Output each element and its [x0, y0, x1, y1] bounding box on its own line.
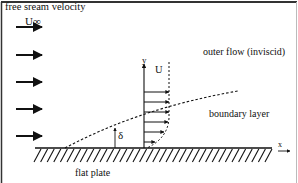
- hatch-mark: [219, 149, 226, 162]
- hatch-mark: [179, 149, 186, 162]
- hatch-mark: [146, 149, 153, 162]
- hatch-mark: [206, 149, 213, 162]
- velocity-profile-arrows: [144, 92, 169, 142]
- free-stream-arrows: [16, 27, 42, 136]
- hatch-mark: [140, 149, 147, 162]
- boundary-layer-edge: [65, 91, 238, 148]
- hatch-mark: [54, 149, 61, 162]
- flat-plate: [34, 148, 272, 162]
- hatch-mark: [126, 149, 133, 162]
- hatch-mark: [100, 149, 107, 162]
- boundary-layer-diagram: free sream velocity U∞ y U outer flow (i…: [0, 0, 298, 183]
- u-label: U: [155, 65, 163, 76]
- outer-flow-label: outer flow (inviscid): [203, 47, 285, 57]
- hatch-mark: [107, 149, 114, 162]
- hatch-mark: [192, 149, 199, 162]
- hatch-mark: [232, 149, 239, 162]
- x-axis-label: x: [278, 141, 282, 149]
- plate-hatching: [34, 149, 272, 162]
- delta-label: δ: [118, 130, 123, 141]
- hatch-mark: [133, 149, 140, 162]
- hatch-mark: [47, 149, 54, 162]
- hatch-mark: [212, 149, 219, 162]
- hatch-mark: [113, 149, 120, 162]
- hatch-mark: [120, 149, 127, 162]
- u-infinity-label: U∞: [25, 16, 41, 27]
- hatch-mark: [265, 149, 272, 162]
- hatch-mark: [252, 149, 259, 162]
- hatch-mark: [74, 149, 81, 162]
- hatch-mark: [80, 149, 87, 162]
- hatch-mark: [258, 149, 265, 162]
- hatch-mark: [87, 149, 94, 162]
- hatch-mark: [153, 149, 160, 162]
- hatch-mark: [166, 149, 173, 162]
- flat-plate-label: flat plate: [75, 168, 110, 178]
- boundary-layer-label: boundary layer: [209, 109, 269, 119]
- hatch-mark: [41, 149, 48, 162]
- hatch-mark: [245, 149, 252, 162]
- hatch-mark: [225, 149, 232, 162]
- hatch-mark: [93, 149, 100, 162]
- hatch-mark: [67, 149, 74, 162]
- free-stream-label: free sream velocity: [5, 2, 85, 13]
- diagram-canvas: [0, 0, 298, 183]
- hatch-mark: [159, 149, 166, 162]
- hatch-mark: [199, 149, 206, 162]
- hatch-mark: [60, 149, 67, 162]
- hatch-mark: [34, 149, 41, 162]
- hatch-mark: [173, 149, 180, 162]
- hatch-mark: [239, 149, 246, 162]
- y-axis-label: y: [142, 56, 147, 65]
- hatch-mark: [186, 149, 193, 162]
